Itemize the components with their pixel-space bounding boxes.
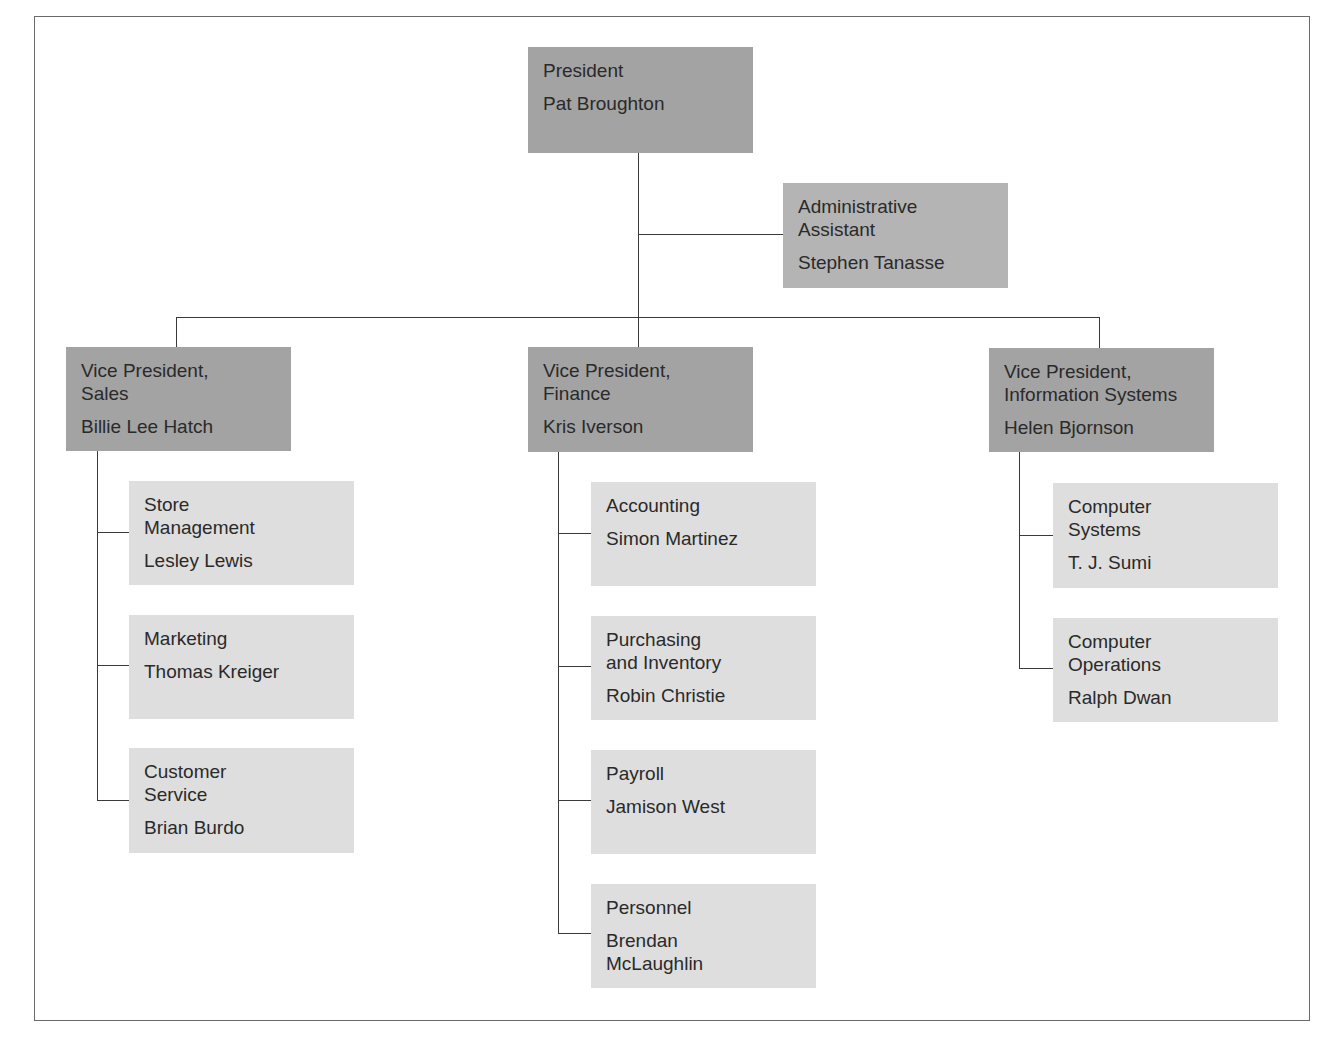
position-title: Vice President, Sales [81,359,277,405]
position-title: Vice President, Information Systems [1004,360,1200,406]
connector-finance-1 [558,533,591,534]
person-name: Robin Christie [606,684,802,707]
person-name: Jamison West [606,795,802,818]
connector-vp-is-up [1099,317,1100,348]
dept-payroll-box: Payroll Jamison West [591,750,816,854]
person-name: Brendan McLaughlin [606,929,802,975]
connector-sales-1 [97,532,130,533]
vp-finance-box: Vice President, Finance Kris Iverson [528,347,753,452]
person-name: Kris Iverson [543,415,739,438]
dept-customer-service-box: Customer Service Brian Burdo [129,748,354,853]
position-title: President [543,59,739,82]
person-name: Billie Lee Hatch [81,415,277,438]
department-title: Computer Operations [1068,630,1264,676]
department-title: Store Management [144,493,340,539]
dept-accounting-box: Accounting Simon Martinez [591,482,816,586]
connector-assistant [638,234,783,235]
connector-finance-2 [558,666,591,667]
dept-marketing-box: Marketing Thomas Kreiger [129,615,354,719]
person-name: Stephen Tanasse [798,251,994,274]
connector-sales-3 [97,800,130,801]
connector-is-1 [1019,535,1053,536]
department-title: Personnel [606,896,802,919]
vp-information-systems-box: Vice President, Information Systems Hele… [989,348,1214,452]
position-title: Administrative Assistant [798,195,994,241]
connector-vp-bar [176,317,1100,318]
dept-purchasing-box: Purchasing and Inventory Robin Christie [591,616,816,720]
president-box: President Pat Broughton [528,47,753,153]
person-name: Ralph Dwan [1068,686,1264,709]
dept-computer-operations-box: Computer Operations Ralph Dwan [1053,618,1278,722]
dept-computer-systems-box: Computer Systems T. J. Sumi [1053,483,1278,588]
department-title: Marketing [144,627,340,650]
person-name: T. J. Sumi [1068,551,1264,574]
person-name: Helen Bjornson [1004,416,1200,439]
vp-sales-box: Vice President, Sales Billie Lee Hatch [66,347,291,451]
dept-personnel-box: Personnel Brendan McLaughlin [591,884,816,988]
connector-is-trunk [1019,451,1020,669]
connector-finance-trunk [558,451,559,934]
person-name: Thomas Kreiger [144,660,340,683]
department-title: Customer Service [144,760,340,806]
connector-finance-3 [558,800,591,801]
connector-sales-2 [97,665,130,666]
person-name: Brian Burdo [144,816,340,839]
department-title: Accounting [606,494,802,517]
connector-vp-sales-up [176,317,177,347]
person-name: Simon Martinez [606,527,802,550]
person-name: Pat Broughton [543,92,739,115]
connector-president-down [638,152,639,348]
assistant-box: Administrative Assistant Stephen Tanasse [783,183,1008,288]
connector-is-2 [1019,668,1053,669]
person-name: Lesley Lewis [144,549,340,572]
department-title: Payroll [606,762,802,785]
connector-sales-trunk [97,450,98,801]
dept-store-management-box: Store Management Lesley Lewis [129,481,354,585]
department-title: Computer Systems [1068,495,1264,541]
department-title: Purchasing and Inventory [606,628,802,674]
connector-finance-4 [558,933,591,934]
position-title: Vice President, Finance [543,359,739,405]
